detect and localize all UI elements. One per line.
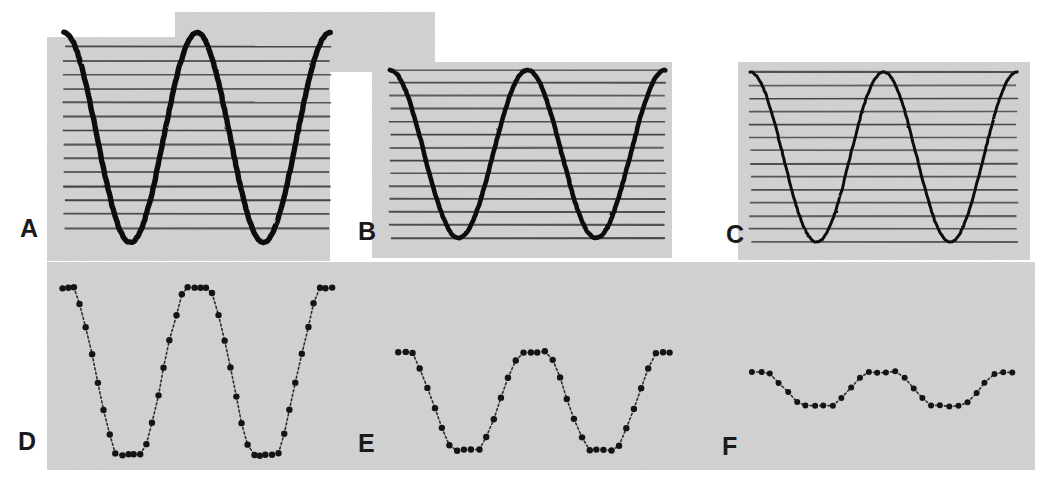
sample-dot (513, 357, 519, 363)
sample-dot (631, 406, 637, 412)
sample-dot (491, 416, 497, 422)
sample-dot (666, 349, 672, 355)
sample-dot (262, 452, 268, 458)
sample-dot (919, 395, 925, 401)
sample-dot (203, 285, 209, 291)
sample-dot (820, 403, 826, 409)
sample-dot (269, 451, 275, 457)
sample-dot (534, 349, 540, 355)
sample-dot (305, 324, 311, 330)
sample-dot (830, 403, 836, 409)
panel-backdrop-d-0 (47, 262, 1035, 470)
sample-dot (542, 348, 548, 354)
sample-dot (623, 425, 629, 431)
sample-dot (59, 285, 65, 291)
sample-dot (329, 284, 335, 290)
sample-dot (143, 441, 149, 447)
sample-dot (191, 284, 197, 290)
sample-dot (403, 349, 409, 355)
sample-dot (587, 447, 593, 453)
sample-dot (82, 324, 88, 330)
sample-dot (981, 380, 987, 386)
waveform-figure-svg: ABCDEF (0, 0, 1040, 483)
sample-dot (965, 399, 971, 405)
sample-dot (310, 300, 316, 306)
sample-dot (866, 369, 872, 375)
sample-dot (95, 380, 101, 386)
sample-dot (281, 431, 287, 437)
sample-dot (892, 368, 898, 374)
sample-dot (505, 375, 511, 381)
sample-dot (902, 375, 908, 381)
sample-dot (498, 394, 504, 400)
sample-dot (857, 375, 863, 381)
sample-dot (179, 291, 185, 297)
sample-dot (974, 390, 980, 396)
sample-dot (468, 446, 474, 452)
sample-dot (89, 351, 95, 357)
sample-dot (911, 386, 917, 392)
sample-dot (785, 389, 791, 395)
sample-dot (802, 402, 808, 408)
sample-dot (76, 301, 82, 307)
sample-dot (794, 399, 800, 405)
sample-dot (520, 349, 526, 355)
sample-dot (557, 374, 563, 380)
sample-dot (476, 446, 482, 452)
sample-dot (812, 403, 818, 409)
sample-dot (461, 446, 467, 452)
sample-dot (119, 452, 125, 458)
sample-dot (645, 365, 651, 371)
panel-backdrop-c-0 (738, 62, 1030, 260)
sample-dot (416, 365, 422, 371)
sample-dot (946, 403, 952, 409)
sample-dot (221, 337, 227, 343)
sample-dot (275, 450, 281, 456)
sample-dot (439, 425, 445, 431)
sample-dot (528, 349, 534, 355)
sample-dot (928, 402, 934, 408)
sample-dot (166, 337, 172, 343)
panel-label-d: D (18, 427, 36, 455)
sample-dot (1000, 369, 1006, 375)
sample-dot (446, 442, 452, 448)
panel-label-a: A (20, 214, 38, 242)
sample-dot (759, 369, 765, 375)
sample-dot (638, 385, 644, 391)
sample-dot (937, 402, 943, 408)
sample-dot (838, 395, 844, 401)
sample-dot (874, 370, 880, 376)
sample-dot (395, 349, 401, 355)
sample-dot (155, 392, 161, 398)
sample-dot (955, 403, 961, 409)
sample-dot (286, 407, 292, 413)
sample-dot (238, 420, 244, 426)
panel-label-e: E (358, 429, 375, 457)
sample-dot (322, 285, 328, 291)
sample-dot (130, 451, 136, 457)
sample-dot (227, 364, 233, 370)
sample-dot (137, 451, 143, 457)
sample-dot (160, 364, 166, 370)
sample-dot (767, 371, 773, 377)
sample-dot (454, 448, 460, 454)
sample-dot (776, 380, 782, 386)
panel-label-b: B (358, 217, 376, 245)
sample-dot (883, 370, 889, 376)
sample-dot (571, 416, 577, 422)
sample-dot (550, 357, 556, 363)
sample-dot (215, 312, 221, 318)
sample-dot (71, 284, 77, 290)
sample-dot (608, 447, 614, 453)
sample-dot (483, 434, 489, 440)
sample-dot (616, 443, 622, 449)
sample-dot (749, 369, 755, 375)
sample-dot (1009, 370, 1015, 376)
sample-dot (292, 379, 298, 385)
sample-dot (173, 312, 179, 318)
sample-dot (149, 420, 155, 426)
sample-dot (209, 290, 215, 296)
sample-dot (65, 285, 71, 291)
sample-dot (564, 396, 570, 402)
panel-label-c: C (726, 220, 744, 248)
